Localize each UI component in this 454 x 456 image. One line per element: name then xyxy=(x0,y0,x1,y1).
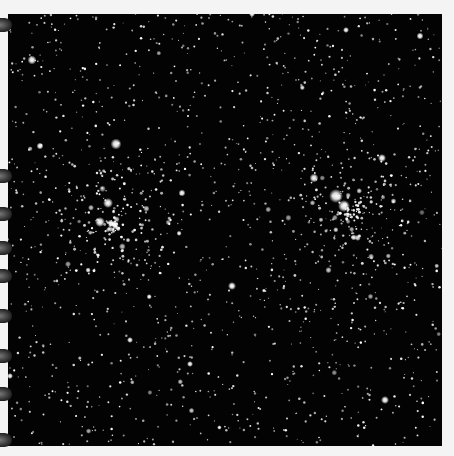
star xyxy=(99,79,101,81)
star xyxy=(274,114,276,116)
star xyxy=(207,298,209,300)
star xyxy=(325,267,331,273)
star xyxy=(398,58,400,60)
star xyxy=(366,388,368,390)
star xyxy=(232,139,234,141)
star xyxy=(272,257,274,259)
star xyxy=(126,53,128,55)
star xyxy=(410,18,412,20)
star xyxy=(196,14,198,15)
star xyxy=(10,69,12,71)
star xyxy=(319,34,320,35)
star xyxy=(308,60,310,62)
star xyxy=(64,207,66,209)
star xyxy=(346,149,348,151)
star xyxy=(229,235,231,237)
star xyxy=(113,119,115,121)
star xyxy=(376,417,378,419)
star xyxy=(142,100,143,101)
star xyxy=(194,91,196,93)
star xyxy=(414,262,416,264)
star xyxy=(51,26,52,27)
star xyxy=(178,379,183,384)
star xyxy=(182,211,184,213)
star xyxy=(171,38,172,39)
star xyxy=(374,333,375,334)
star xyxy=(361,150,363,152)
star xyxy=(429,48,431,50)
star xyxy=(158,255,160,257)
star xyxy=(350,166,352,168)
star xyxy=(61,50,62,51)
star xyxy=(70,270,71,271)
star xyxy=(411,377,413,379)
star xyxy=(256,218,258,220)
star xyxy=(359,116,361,118)
star xyxy=(414,348,415,349)
star xyxy=(428,341,430,343)
star xyxy=(108,220,111,223)
star xyxy=(98,405,99,406)
star xyxy=(320,59,322,61)
star xyxy=(13,436,15,438)
star xyxy=(208,313,210,315)
star xyxy=(31,247,33,249)
star xyxy=(18,376,19,377)
star xyxy=(345,80,346,81)
star xyxy=(297,18,299,20)
star xyxy=(25,113,27,115)
star xyxy=(188,279,189,280)
star xyxy=(166,403,169,406)
star xyxy=(165,95,168,98)
star xyxy=(358,412,359,413)
star xyxy=(284,378,286,380)
star xyxy=(343,142,345,144)
star xyxy=(388,259,390,261)
star xyxy=(153,443,155,445)
star xyxy=(175,334,178,337)
star xyxy=(341,222,343,224)
star xyxy=(113,85,114,86)
star xyxy=(403,377,405,379)
star xyxy=(185,325,187,327)
star xyxy=(303,321,304,322)
star xyxy=(160,206,161,207)
star xyxy=(158,96,160,98)
star xyxy=(42,344,45,347)
star xyxy=(340,177,342,179)
star xyxy=(166,351,168,353)
star xyxy=(64,24,65,25)
star xyxy=(84,197,86,199)
star xyxy=(331,299,332,300)
star xyxy=(133,257,135,259)
star xyxy=(132,189,133,190)
star xyxy=(272,162,274,164)
star xyxy=(424,170,426,172)
star xyxy=(264,300,265,301)
star xyxy=(332,45,334,47)
star xyxy=(50,343,52,345)
star xyxy=(29,386,30,387)
star xyxy=(384,101,386,103)
star xyxy=(151,265,152,266)
star xyxy=(70,17,72,19)
star xyxy=(68,190,70,192)
star xyxy=(135,239,138,242)
star xyxy=(239,93,241,95)
star xyxy=(344,182,346,184)
star xyxy=(200,259,201,260)
star xyxy=(268,14,270,15)
star xyxy=(271,97,272,98)
star xyxy=(137,288,138,289)
star xyxy=(107,333,109,335)
star xyxy=(390,209,391,210)
star xyxy=(284,67,286,69)
star xyxy=(209,218,211,220)
star xyxy=(95,185,97,187)
star xyxy=(160,192,163,195)
star xyxy=(372,38,375,41)
star xyxy=(69,444,70,445)
star xyxy=(333,306,335,308)
star xyxy=(342,84,344,86)
star xyxy=(436,212,438,214)
